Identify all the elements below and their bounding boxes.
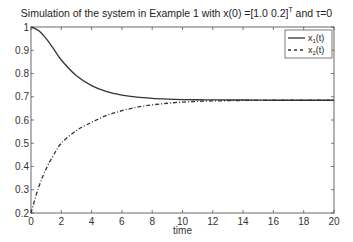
x-tick-label: 12	[207, 216, 219, 227]
legend: x1(t)x2(t)	[285, 30, 332, 58]
y-tick-label: 0.3	[15, 184, 29, 195]
legend-label-1: x1(t)	[308, 33, 324, 44]
x-tick-label: 18	[298, 216, 310, 227]
y-tick-label: 0.7	[15, 91, 29, 102]
x-tick-label: 20	[328, 216, 340, 227]
y-tick-label: 0.6	[15, 115, 29, 126]
y-tick-label: 0.8	[15, 68, 29, 79]
line-chart: 024681012141618200.20.30.40.50.60.70.80.…	[0, 0, 353, 242]
legend-label-2: x2(t)	[308, 45, 324, 56]
y-tick-label: 0.2	[15, 208, 29, 219]
x-tick-label: 0	[28, 216, 34, 227]
x-tick-label: 4	[89, 216, 95, 227]
y-tick-label: 0.4	[15, 161, 29, 172]
series-line-2	[31, 100, 334, 213]
y-tick-label: 0.5	[15, 138, 29, 149]
x-tick-label: 8	[149, 216, 155, 227]
x-tick-label: 6	[119, 216, 125, 227]
x-axis-label: time	[173, 225, 192, 236]
x-tick-label: 2	[59, 216, 65, 227]
x-tick-label: 14	[238, 216, 250, 227]
y-tick-label: 0.9	[15, 45, 29, 56]
y-tick-label: 1	[23, 22, 29, 33]
x-tick-label: 16	[268, 216, 280, 227]
